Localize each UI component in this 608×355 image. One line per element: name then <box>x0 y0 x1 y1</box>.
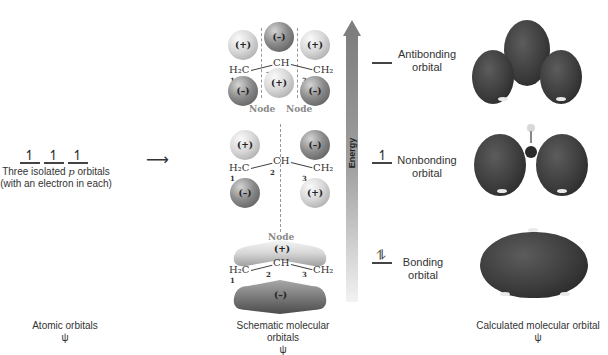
formula-ch: CH <box>273 57 289 68</box>
node-label: Node <box>249 104 275 114</box>
lobe-negative: (–) <box>228 76 258 106</box>
nonbonding-label: Nonbonding orbital <box>396 154 458 180</box>
node-plane <box>261 28 262 98</box>
lobe-positive-label: (+) <box>274 244 290 254</box>
formula-ch: CH <box>273 155 289 166</box>
psi-symbol: ψ <box>222 344 344 355</box>
lobe-positive: (+) <box>228 30 258 60</box>
atomic-orbitals-footer: Atomic orbitals ψ <box>20 320 110 344</box>
highlight <box>500 292 510 296</box>
right-arrow-icon: ⟶ <box>146 150 169 169</box>
lobe-negative: (–) <box>264 22 294 52</box>
formula-ch: CH <box>273 257 289 268</box>
energy-label: Energy <box>347 137 357 169</box>
formula-ch2-left: H₂C <box>229 64 249 75</box>
carbon-number-2: 2 <box>270 168 275 177</box>
electron-pair-icon: ⥮ <box>376 248 386 262</box>
lobe-negative: (–) <box>230 178 260 208</box>
formula-ch2-right: CH₂ <box>313 64 333 75</box>
bonding-lobe <box>480 232 588 298</box>
antibonding-lobe-left <box>472 50 514 104</box>
nonbonding-lobe-right <box>536 134 588 196</box>
schematic-orbitals-footer: Schematic molecular orbitals ψ <box>222 320 344 355</box>
node-label: Node <box>286 104 312 114</box>
highlight <box>498 97 508 101</box>
bonding-label: Bonding orbital <box>396 256 450 282</box>
formula-ch2-right: CH₂ <box>313 162 333 173</box>
lobe-positive: (+) <box>230 130 260 160</box>
lobe-positive: (+) <box>264 68 294 98</box>
electron-up-icon: ↿ <box>377 148 389 162</box>
lobe-positive: (+) <box>300 30 330 60</box>
calculated-orbital-footer: Calculated molecular orbital ψ <box>476 320 600 344</box>
lobe-positive: (+) <box>300 178 330 208</box>
lobe-negative: (–) <box>300 76 330 106</box>
highlight <box>557 189 567 193</box>
energy-arrow-head <box>343 20 361 36</box>
lobe-negative-label: (–) <box>274 290 287 300</box>
lobe-negative: (–) <box>300 130 330 160</box>
formula-ch2-left: H₂C <box>229 264 249 275</box>
bond-line <box>291 64 313 70</box>
c-h-bond <box>530 131 532 143</box>
psi-symbol: ψ <box>20 332 110 344</box>
antibonding-level <box>372 62 392 64</box>
electron-up-icon: ↿ <box>48 148 60 162</box>
antibonding-label: Antibonding orbital <box>396 48 458 74</box>
bond-line <box>291 162 313 168</box>
psi-symbol: ψ <box>476 332 600 344</box>
atomic-caption: Three isolated p orbitals (with an elect… <box>0 166 112 190</box>
formula-ch2-left: H₂C <box>229 162 249 173</box>
highlight <box>560 292 570 296</box>
node-plane <box>280 124 281 232</box>
node-plane <box>297 28 298 98</box>
highlight <box>497 189 507 193</box>
formula-ch2-right: CH₂ <box>313 264 333 275</box>
carbon-atom <box>525 146 537 158</box>
antibonding-lobe-right <box>540 50 582 104</box>
electron-up-icon: ↿ <box>24 148 36 162</box>
electron-up-icon: ↿ <box>72 148 84 162</box>
highlight <box>556 97 566 101</box>
highlight <box>528 228 538 232</box>
nonbonding-lobe-left <box>474 134 526 196</box>
